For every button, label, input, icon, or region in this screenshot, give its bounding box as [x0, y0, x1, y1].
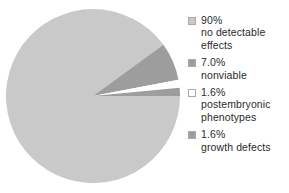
legend-swatch-icon: [188, 89, 196, 97]
legend-item-text: 1.6% postembryonic phenotypes: [201, 86, 271, 123]
legend-percent: 7.0%: [201, 56, 247, 68]
legend-label-line1: postembryonic: [201, 98, 271, 110]
legend-label-line1: growth defects: [201, 141, 271, 153]
legend-percent: 1.6%: [201, 128, 271, 140]
legend-item-postembryonic-phenotypes[interactable]: 1.6% postembryonic phenotypes: [188, 86, 289, 123]
legend-label-line1: no detectable: [201, 26, 265, 38]
legend-percent: 90%: [201, 14, 265, 26]
pie-chart-figure: 90% no detectable effects 7.0% nonviable…: [0, 0, 289, 193]
legend-swatch-icon: [188, 59, 196, 67]
legend-item-text: 1.6% growth defects: [201, 128, 271, 153]
legend-item-growth-defects[interactable]: 1.6% growth defects: [188, 128, 289, 153]
legend-percent: 1.6%: [201, 86, 271, 98]
legend-label-line1: nonviable: [201, 69, 247, 81]
legend-item-text: 90% no detectable effects: [201, 14, 265, 51]
pie-chart-svg: [0, 0, 190, 193]
pie-chart-plot-area: [0, 0, 190, 193]
pie-slice[interactable]: [6, 9, 180, 183]
legend-item-nonviable[interactable]: 7.0% nonviable: [188, 56, 289, 81]
legend-swatch-icon: [188, 131, 196, 139]
legend-item-text: 7.0% nonviable: [201, 56, 247, 81]
legend-label-line2: phenotypes: [201, 111, 271, 123]
legend-item-no-detectable-effects[interactable]: 90% no detectable effects: [188, 14, 289, 51]
legend-swatch-icon: [188, 17, 196, 25]
chart-legend: 90% no detectable effects 7.0% nonviable…: [188, 14, 289, 186]
pie-slice-group: [6, 9, 180, 183]
legend-label-line2: effects: [201, 39, 265, 51]
